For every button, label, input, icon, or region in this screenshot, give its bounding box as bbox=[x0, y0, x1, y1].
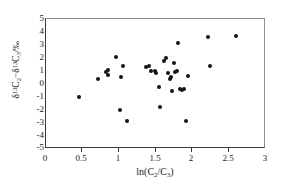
x-tick-0p5 bbox=[81, 148, 82, 152]
x-axis-title-text: ln(C2/C3) bbox=[136, 166, 173, 177]
data-point bbox=[175, 69, 179, 73]
x-tick-label-2: 2 bbox=[176, 153, 206, 163]
y-tick-label-neg4: -4 bbox=[20, 131, 44, 140]
data-point bbox=[96, 77, 100, 81]
x-tick-1p5 bbox=[155, 148, 156, 152]
data-point bbox=[186, 74, 190, 78]
data-points-layer bbox=[46, 19, 264, 147]
x-tick-label-0p5: 0.5 bbox=[66, 153, 96, 163]
x-tick-label-3: 3 bbox=[250, 153, 280, 163]
data-point bbox=[176, 41, 180, 45]
x-tick-label-1: 1 bbox=[103, 153, 133, 163]
data-point bbox=[234, 34, 238, 38]
y-tick-label-neg5: -5 bbox=[20, 143, 44, 152]
data-point bbox=[125, 119, 129, 123]
plot-area bbox=[45, 18, 265, 148]
data-point bbox=[106, 68, 110, 72]
data-point bbox=[169, 75, 173, 79]
x-tick-1 bbox=[118, 148, 119, 152]
data-point bbox=[119, 75, 123, 79]
data-point bbox=[157, 85, 161, 89]
x-tick-label-2p5: 2.5 bbox=[213, 153, 243, 163]
data-point bbox=[208, 64, 212, 68]
data-point bbox=[172, 61, 176, 65]
data-point bbox=[147, 64, 151, 68]
y-axis-title: δ13C2−δ13C3/‰ bbox=[8, 10, 23, 130]
data-point bbox=[154, 71, 158, 75]
x-tick-2 bbox=[191, 148, 192, 152]
data-point bbox=[121, 64, 125, 68]
scatter-chart-figure: 5 4 3 2 1 0 -1 -2 -3 -4 -5 0 0.5 1 1.5 2… bbox=[0, 0, 282, 194]
data-point bbox=[182, 87, 186, 91]
x-tick-label-0: 0 bbox=[30, 153, 60, 163]
data-point bbox=[184, 119, 188, 123]
x-tick-2p5 bbox=[228, 148, 229, 152]
data-point bbox=[118, 108, 122, 112]
y-axis-title-text: δ13C2−δ13C3/‰ bbox=[11, 41, 21, 99]
data-point bbox=[170, 89, 174, 93]
data-point bbox=[114, 55, 118, 59]
data-point bbox=[106, 73, 110, 77]
data-point bbox=[158, 105, 162, 109]
data-point bbox=[206, 35, 210, 39]
x-tick-label-1p5: 1.5 bbox=[140, 153, 170, 163]
x-axis-title: ln(C2/C3) bbox=[45, 166, 265, 181]
data-point bbox=[164, 56, 168, 60]
data-point bbox=[77, 95, 81, 99]
